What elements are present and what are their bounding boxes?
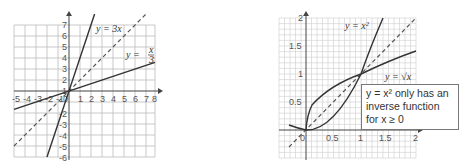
svg-text:5: 5 <box>122 94 127 104</box>
label-y-eq-3x: y = 3x <box>95 23 122 34</box>
left-chart: -5-4-3 -2-10 123 456 78 765 432 1-2-3 -4… <box>12 11 163 163</box>
annotation-box: y = x² only has an inverse function for … <box>361 84 459 130</box>
svg-text:1: 1 <box>298 69 303 79</box>
svg-text:3: 3 <box>100 94 105 104</box>
svg-text:5: 5 <box>62 42 67 52</box>
svg-text:6: 6 <box>133 94 138 104</box>
label-y-eq-sqrt-x: y = √x <box>384 71 412 82</box>
svg-text:-5: -5 <box>12 94 20 104</box>
svg-text:6: 6 <box>62 31 67 41</box>
svg-text:0.5: 0.5 <box>289 97 302 107</box>
label-y-eq-x-squared: y = x² <box>344 20 370 31</box>
label-y-eq-x-over-3-prefix: y = <box>125 49 140 60</box>
svg-text:0.5: 0.5 <box>326 133 339 143</box>
svg-text:4: 4 <box>62 53 67 63</box>
annotation-line-2: inverse function <box>366 100 454 113</box>
svg-text:1: 1 <box>358 133 363 143</box>
svg-text:8: 8 <box>152 94 157 104</box>
svg-text:3: 3 <box>62 64 67 74</box>
svg-text:-4: -4 <box>23 94 31 104</box>
svg-text:2: 2 <box>413 133 418 143</box>
svg-text:1.5: 1.5 <box>379 133 392 143</box>
svg-text:-3: -3 <box>59 120 67 130</box>
svg-text:-4: -4 <box>59 131 67 141</box>
svg-text:7: 7 <box>144 94 149 104</box>
charts-canvas: -5-4-3 -2-10 123 456 78 765 432 1-2-3 -4… <box>0 0 465 166</box>
svg-text:2: 2 <box>298 13 303 23</box>
svg-text:1: 1 <box>78 94 83 104</box>
svg-text:7: 7 <box>62 20 67 30</box>
annotation-line-1: y = x² only has an <box>366 87 454 100</box>
svg-text:4: 4 <box>111 94 116 104</box>
label-x3-den: 3 <box>148 54 154 65</box>
annotation-line-3: for x ≥ 0 <box>366 113 454 126</box>
svg-text:-6: -6 <box>59 153 67 163</box>
svg-text:1.5: 1.5 <box>289 41 302 51</box>
svg-text:2: 2 <box>62 75 67 85</box>
svg-text:2: 2 <box>89 94 94 104</box>
svg-text:-5: -5 <box>59 142 67 152</box>
